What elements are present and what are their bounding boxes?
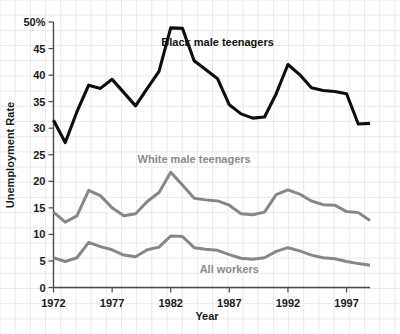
x-axis-title: Year — [195, 310, 219, 322]
y-tick-label: 15 — [33, 202, 45, 214]
y-axis-tick-labels: 05101520253035404550% — [23, 16, 45, 294]
y-tick-label: 45 — [33, 43, 45, 55]
x-tick-label: 1997 — [334, 297, 358, 309]
y-tick-label: 10 — [33, 228, 45, 240]
series-line — [54, 172, 371, 222]
y-tick-label: 30 — [33, 122, 45, 134]
y-axis-title: Unemployment Rate — [4, 102, 16, 208]
x-tick-label: 1992 — [276, 297, 300, 309]
y-tick-label: 25 — [33, 149, 45, 161]
chart-container: 05101520253035404550% 197219771982198719… — [0, 0, 400, 334]
x-tick-label: 1982 — [158, 297, 182, 309]
y-tick-label: 0 — [39, 282, 45, 294]
data-series — [54, 28, 371, 265]
y-tick-label: 50% — [23, 16, 45, 28]
x-tick-label: 1977 — [100, 297, 124, 309]
series-label: Black male teenagers — [161, 36, 274, 48]
y-tick-label: 35 — [33, 96, 45, 108]
y-tick-label: 5 — [39, 255, 45, 267]
x-tick-label: 1987 — [217, 297, 241, 309]
y-tick-label: 40 — [33, 69, 45, 81]
y-tick-label: 20 — [33, 175, 45, 187]
x-axis-tick-labels: 197219771982198719921997 — [41, 297, 359, 309]
series-label: White male teenagers — [138, 153, 251, 165]
chart-svg: 05101520253035404550% 197219771982198719… — [0, 0, 400, 334]
series-label: All workers — [200, 263, 259, 275]
x-tick-label: 1972 — [41, 297, 65, 309]
series-line — [54, 236, 371, 265]
